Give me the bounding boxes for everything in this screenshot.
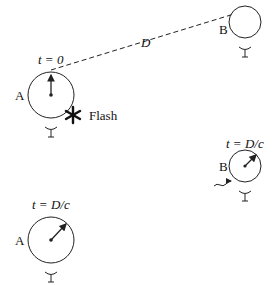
eye-icon <box>45 127 57 137</box>
label-observer-b-bottom: B <box>219 160 228 173</box>
eye-icon <box>239 191 251 201</box>
eye-icon <box>45 272 57 282</box>
clock-a-bottom <box>28 217 74 263</box>
label-observer-a-bottom: A <box>15 234 24 247</box>
label-t-dc-b: t = D/c <box>226 137 264 150</box>
label-distance: D <box>141 36 150 49</box>
asterisk-flash-icon <box>66 107 80 123</box>
light-signal-diagram: t = 0 D A Flash B t = D/c B t = D/c A <box>0 0 276 285</box>
label-t0: t = 0 <box>38 53 63 66</box>
label-t-dc-a: t = D/c <box>32 198 70 211</box>
label-observer-a-top: A <box>15 89 24 102</box>
label-flash: Flash <box>89 109 117 122</box>
clock-b-top <box>229 6 261 38</box>
label-observer-b-top: B <box>219 23 228 36</box>
clock-b-bottom <box>229 150 261 182</box>
eye-icon <box>239 47 251 57</box>
light-wave <box>214 181 231 186</box>
